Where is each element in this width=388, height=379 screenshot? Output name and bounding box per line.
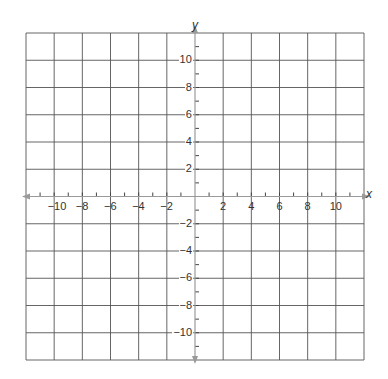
x-tick-label: −4 [132,201,145,212]
y-tick-label: 4 [185,136,193,147]
y-tick-label: −10 [172,327,193,338]
x-tick-label: −6 [104,201,117,212]
y-axis-label: y [192,18,198,32]
x-tick-label: −2 [160,201,173,212]
x-tick-label: 2 [220,201,226,212]
y-tick-label: 10 [179,54,193,65]
y-tick-label: 8 [185,82,193,93]
coordinate-grid [0,0,388,379]
x-tick-label: −8 [76,201,89,212]
x-tick-label: 8 [305,201,311,212]
y-tick-label: 2 [185,163,193,174]
x-tick-label: −10 [48,201,67,212]
y-tick-label: −8 [179,300,194,311]
y-tick-label: 6 [185,109,193,120]
x-tick-label: 4 [248,201,254,212]
axes [22,25,370,364]
x-axis-label: x [366,187,372,201]
y-tick-label: −4 [179,245,194,256]
y-tick-label: −6 [179,272,194,283]
y-tick-label: −2 [179,218,194,229]
x-tick-label: 6 [276,201,282,212]
x-tick-label: 10 [330,201,342,212]
